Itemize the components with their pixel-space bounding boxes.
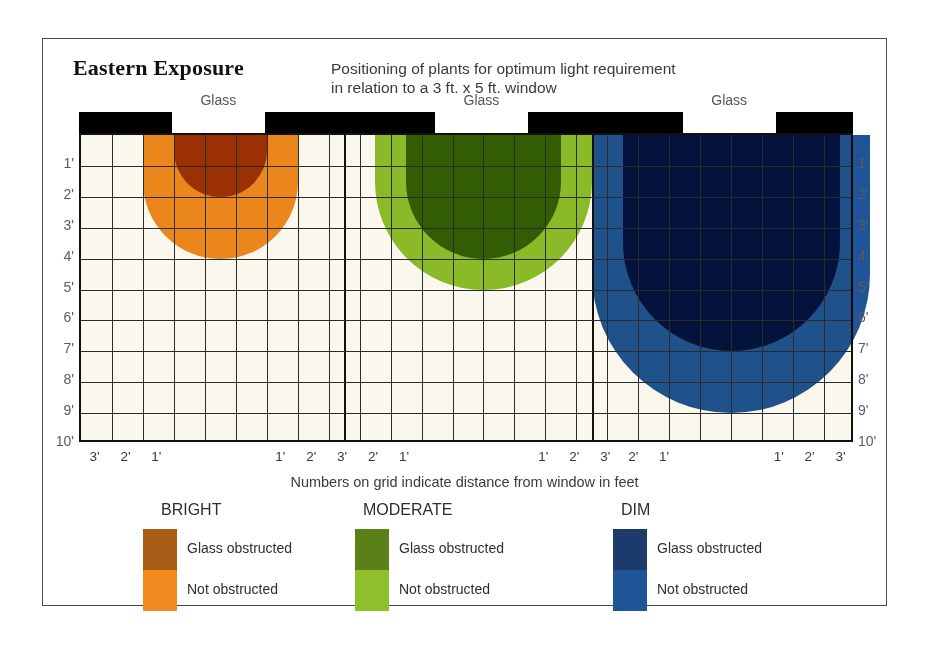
grid-line-vertical: [329, 135, 330, 440]
legend-label-not-obstructed: Not obstructed: [399, 581, 490, 597]
legend-swatch-not-obstructed: [613, 570, 647, 611]
grid-line-vertical: [205, 135, 206, 440]
legend-swatch-obstructed: [355, 529, 389, 570]
grid-line-horizontal: [81, 382, 851, 383]
grid-line-vertical: [576, 135, 577, 440]
x-axis-label: 3': [591, 449, 619, 464]
y-axis-label-left: 1': [43, 155, 74, 171]
y-axis-label-left: 4': [43, 248, 74, 264]
legend-swatch-not-obstructed: [143, 570, 177, 611]
legend-title: BRIGHT: [161, 501, 221, 519]
grid-line-horizontal: [81, 320, 851, 321]
diagram-frame: Eastern Exposure Positioning of plants f…: [42, 38, 887, 606]
legend-title: MODERATE: [363, 501, 452, 519]
y-axis-label-right: 2': [858, 186, 868, 202]
grid-line-vertical: [391, 135, 392, 440]
grid-line-vertical: [453, 135, 454, 440]
grid-line-vertical: [143, 135, 144, 440]
grid-line-vertical: [360, 135, 361, 440]
y-axis-label-right: 5': [858, 279, 868, 295]
x-axis-label: 1': [266, 449, 294, 464]
grid-line-horizontal: [81, 228, 851, 229]
window-wall-row: GlassGlassGlass: [79, 112, 853, 133]
grid-line-vertical: [267, 135, 268, 440]
x-axis-label: 1': [142, 449, 170, 464]
grid-line-vertical: [669, 135, 670, 440]
subtitle-line-1: Positioning of plants for optimum light …: [331, 59, 676, 78]
x-axis-label: 2': [560, 449, 588, 464]
grid-line-horizontal: [81, 351, 851, 352]
wall-segment: [528, 112, 683, 133]
y-axis-label-left: 5': [43, 279, 74, 295]
x-axis-label: 1': [390, 449, 418, 464]
y-axis-label-right: 8': [858, 371, 868, 387]
legend-swatch-obstructed: [613, 529, 647, 570]
grid-line-horizontal: [81, 197, 851, 198]
y-axis-label-left: 6': [43, 309, 74, 325]
y-axis-label-left: 3': [43, 217, 74, 233]
legend-label-obstructed: Glass obstructed: [399, 540, 504, 556]
panel-divider: [344, 135, 346, 440]
x-axis-label: 2': [297, 449, 325, 464]
grid-line-vertical: [422, 135, 423, 440]
y-axis-label-left: 10': [43, 433, 74, 449]
grid-line-horizontal: [81, 166, 851, 167]
legend-label-obstructed: Glass obstructed: [657, 540, 762, 556]
y-axis-label-right: 9': [858, 402, 868, 418]
grid-line-vertical: [607, 135, 608, 440]
grid-line-horizontal: [81, 413, 851, 414]
grid-line-vertical: [638, 135, 639, 440]
legend-swatch: [355, 529, 389, 611]
grid-line-vertical: [700, 135, 701, 440]
wall-segment: [776, 112, 853, 133]
diagram-page: Eastern Exposure Positioning of plants f…: [0, 0, 927, 655]
axis-note: Numbers on grid indicate distance from w…: [43, 474, 886, 490]
x-axis-label: 2': [111, 449, 139, 464]
y-axis-label-right: 6': [858, 309, 868, 325]
x-axis-label: 2': [359, 449, 387, 464]
glass-label: Glass: [425, 92, 538, 108]
y-axis-label-left: 8': [43, 371, 74, 387]
x-axis-label: 1': [650, 449, 678, 464]
light-grid: [79, 133, 853, 442]
grid-line-vertical: [731, 135, 732, 440]
grid-line-vertical: [298, 135, 299, 440]
y-axis-label-right: 4': [858, 248, 868, 264]
y-axis-label-right: 7': [858, 340, 868, 356]
x-axis-label: 1': [765, 449, 793, 464]
grid-line-vertical: [545, 135, 546, 440]
legend-label-not-obstructed: Not obstructed: [657, 581, 748, 597]
glass-label: Glass: [162, 92, 275, 108]
grid-line-vertical: [236, 135, 237, 440]
legend-title: DIM: [621, 501, 650, 519]
legend-swatch-obstructed: [143, 529, 177, 570]
y-axis-label-left: 7': [43, 340, 74, 356]
x-axis-label: 3': [328, 449, 356, 464]
grid-line-vertical: [793, 135, 794, 440]
legend-label-obstructed: Glass obstructed: [187, 540, 292, 556]
x-axis-label: 3': [80, 449, 108, 464]
grid-line-vertical: [483, 135, 484, 440]
legend-swatch: [143, 529, 177, 611]
legend-swatch: [613, 529, 647, 611]
x-axis-label: 2': [619, 449, 647, 464]
legend-swatch-not-obstructed: [355, 570, 389, 611]
legend-label-not-obstructed: Not obstructed: [187, 581, 278, 597]
x-axis-label: 1': [529, 449, 557, 464]
y-axis-label-right: 10': [858, 433, 876, 449]
y-axis-label-left: 2': [43, 186, 74, 202]
panel-divider: [592, 135, 594, 440]
grid-line-horizontal: [81, 259, 851, 260]
y-axis-label-left: 9': [43, 402, 74, 418]
page-title: Eastern Exposure: [73, 55, 244, 81]
y-axis-label-right: 3': [858, 217, 868, 233]
wall-segment: [265, 112, 435, 133]
grid-line-vertical: [174, 135, 175, 440]
grid-line-vertical: [762, 135, 763, 440]
glass-label: Glass: [673, 92, 786, 108]
grid-line-vertical: [112, 135, 113, 440]
x-axis-label: 3': [827, 449, 855, 464]
wall-segment: [79, 112, 172, 133]
x-axis-label: 2': [796, 449, 824, 464]
grid-line-horizontal: [81, 290, 851, 291]
